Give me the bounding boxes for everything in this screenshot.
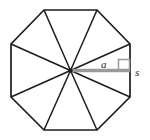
side-length-label: s <box>135 67 139 78</box>
octagon-figure: a s <box>0 0 150 140</box>
apothem-label: a <box>101 59 107 70</box>
octagon-center-point <box>68 68 72 72</box>
octagon-diagram-svg <box>0 0 150 140</box>
